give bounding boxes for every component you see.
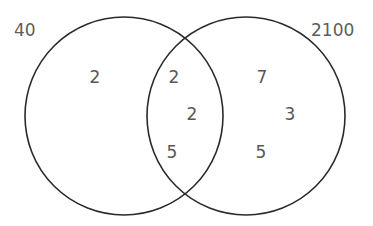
left-set-label: 40 bbox=[14, 22, 36, 39]
intersection-value: 2 bbox=[169, 69, 180, 86]
intersection-value: 2 bbox=[187, 106, 198, 123]
right-only-value: 7 bbox=[257, 69, 268, 86]
venn-diagram-figure: 40 2100 2 2 2 5 7 3 5 bbox=[0, 0, 373, 226]
right-only-value: 5 bbox=[256, 144, 267, 161]
intersection-value: 5 bbox=[167, 144, 178, 161]
right-set-label: 2100 bbox=[311, 22, 354, 39]
right-only-value: 3 bbox=[285, 106, 296, 123]
right-set-circle bbox=[147, 17, 345, 215]
left-only-value: 2 bbox=[90, 69, 101, 86]
